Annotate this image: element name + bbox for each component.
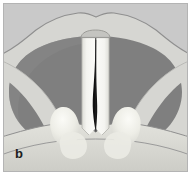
- illustration-plate: b: [3, 3, 188, 172]
- arytenoid-right-lower: [104, 132, 131, 159]
- arytenoid-left-lower: [60, 132, 87, 159]
- figure-panel: b: [0, 0, 191, 178]
- panel-label: b: [15, 147, 23, 160]
- vocal-cord-right: [96, 38, 109, 135]
- larynx-illustration: [4, 4, 187, 171]
- vocal-cord-left: [82, 38, 95, 135]
